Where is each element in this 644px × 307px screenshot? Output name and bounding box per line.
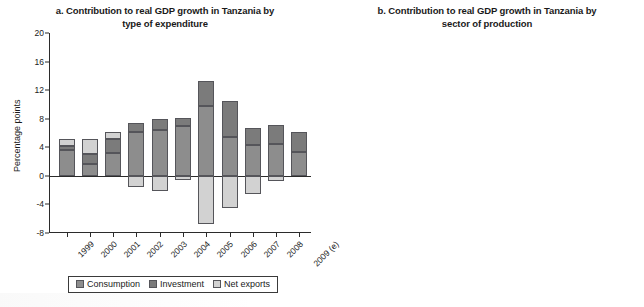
x-axis-tick-mark [206, 233, 207, 237]
x-axis-tick-label: 1999 [75, 239, 95, 259]
y-axis-tick-mark [45, 118, 49, 119]
legend-swatch [149, 280, 157, 288]
x-axis-tick-mark [136, 233, 137, 237]
figure-root: a. Contribution to real GDP growth in Ta… [0, 0, 644, 307]
legend-label: Investment [160, 279, 204, 289]
bar-segment[interactable] [59, 146, 75, 150]
x-axis-tick-mark [230, 233, 231, 237]
x-axis-tick-mark [183, 233, 184, 237]
chart-panel-a: a. Contribution to real GDP growth in Ta… [0, 0, 330, 307]
bar-group[interactable] [268, 33, 284, 233]
bar-segment[interactable] [175, 126, 191, 176]
x-axis-tick-mark [113, 233, 114, 237]
legend-item[interactable]: Consumption [76, 279, 140, 289]
chart-panel-b: b. Contribution to real GDP growth in Ta… [330, 0, 644, 307]
bar-group[interactable] [128, 33, 144, 233]
bar-segment[interactable] [245, 176, 261, 194]
legend-label: Consumption [87, 279, 140, 289]
bar-segment[interactable] [152, 130, 168, 176]
x-axis-tick-label: 2007 [261, 239, 281, 259]
chart-b-title: b. Contribution to real GDP growth in Ta… [330, 4, 644, 30]
bar-segment[interactable] [82, 154, 98, 163]
chart-a-title-line1: a. Contribution to real GDP growth in Ta… [56, 5, 275, 16]
bar-segment[interactable] [59, 150, 75, 176]
bar-segment[interactable] [198, 176, 214, 224]
bar-segment[interactable] [128, 176, 144, 187]
bar-segment[interactable] [198, 81, 214, 106]
x-axis-tick-mark [276, 233, 277, 237]
bar-segment[interactable] [128, 132, 144, 176]
chart-b-title-line1: b. Contribution to real GDP growth in Ta… [377, 5, 596, 16]
x-axis-tick-mark [160, 233, 161, 237]
legend-swatch [76, 280, 84, 288]
bar-segment[interactable] [222, 101, 238, 137]
chart-a-legend: ConsumptionInvestmentNet exports [68, 276, 278, 293]
bar-segment[interactable] [59, 139, 75, 146]
bar-group[interactable] [59, 33, 75, 233]
bar-segment[interactable] [291, 132, 307, 152]
bar-segment[interactable] [198, 106, 214, 176]
bar-segment[interactable] [152, 176, 168, 191]
bar-segment[interactable] [245, 145, 261, 176]
legend-item[interactable]: Net exports [213, 279, 270, 289]
bar-segment[interactable] [268, 144, 284, 175]
bar-segment[interactable] [175, 118, 191, 126]
bar-group[interactable] [222, 33, 238, 233]
bar-segment[interactable] [175, 176, 191, 180]
bar-group[interactable] [245, 33, 261, 233]
bar-segment[interactable] [82, 164, 98, 176]
chart-a-ylabel: Percentage points [12, 99, 22, 172]
bar-segment[interactable] [222, 176, 238, 208]
x-axis-tick-mark [90, 233, 91, 237]
bar-segment[interactable] [105, 153, 121, 176]
bar-group[interactable] [198, 33, 214, 233]
legend-swatch [213, 280, 221, 288]
x-axis-tick-label: 2001 [122, 239, 142, 259]
x-axis-tick-mark [299, 233, 300, 237]
y-axis-tick-mark [45, 204, 49, 205]
chart-a-title: a. Contribution to real GDP growth in Ta… [0, 4, 330, 30]
chart-b-title-line2: sector of production [348, 17, 626, 30]
bar-group[interactable] [152, 33, 168, 233]
x-axis-tick-label: 2008 [285, 239, 305, 259]
x-axis-tick-label: 2004 [192, 239, 212, 259]
legend-label: Net exports [224, 279, 270, 289]
x-axis-tick-label: 2002 [145, 239, 165, 259]
x-axis-tick-label: 2000 [98, 239, 118, 259]
bar-segment[interactable] [268, 176, 284, 181]
bar-segment[interactable] [152, 119, 168, 130]
x-axis-tick-label: 2005 [215, 239, 235, 259]
legend-item[interactable]: Investment [149, 279, 204, 289]
bar-group[interactable] [105, 33, 121, 233]
bar-segment[interactable] [222, 137, 238, 176]
bar-segment[interactable] [291, 152, 307, 176]
x-axis-tick-mark [67, 233, 68, 237]
chart-a-title-line2: type of expenditure [18, 17, 312, 30]
bar-segment[interactable] [268, 125, 284, 144]
y-axis-tick-mark [45, 90, 49, 91]
bar-segment[interactable] [128, 123, 144, 132]
bar-segment[interactable] [245, 128, 261, 145]
y-axis-tick-mark [45, 33, 49, 34]
bar-group[interactable] [82, 33, 98, 233]
bar-segment[interactable] [105, 132, 121, 139]
chart-a-y-axis [49, 33, 50, 233]
bar-group[interactable] [175, 33, 191, 233]
x-axis-tick-mark [253, 233, 254, 237]
chart-a-plot-area: 201612840-4-8199920002001200220032004200… [49, 33, 311, 233]
y-axis-tick-mark [45, 233, 49, 234]
y-axis-tick-mark [45, 61, 49, 62]
x-axis-tick-label: 2003 [168, 239, 188, 259]
x-axis-tick-label: 2006 [238, 239, 258, 259]
bar-segment[interactable] [82, 139, 98, 154]
bar-segment[interactable] [105, 139, 121, 153]
y-axis-tick-mark [45, 147, 49, 148]
bar-group[interactable] [291, 33, 307, 233]
